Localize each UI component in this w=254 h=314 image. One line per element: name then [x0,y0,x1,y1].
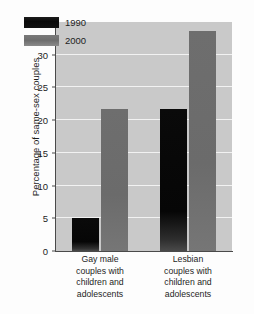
legend-swatch-1990 [24,17,59,28]
y-axis-tick-label: 30 [37,49,48,60]
x-axis-category-line: Lesbian [144,254,232,266]
x-axis-line [55,251,233,252]
legend-swatch-2000 [24,35,59,46]
x-axis-category-line: Gay male [56,254,144,266]
bar-1990-group-1 [72,218,99,251]
bar-1990-group-2 [160,109,187,251]
y-axis-tick-label: 15 [37,147,48,158]
legend-item: 2000 [24,32,144,48]
bar-2000-group-1 [101,109,128,251]
x-axis-category-line: couples with [56,266,144,278]
x-axis-category-label: Gay malecouples withchildren andadolesce… [56,254,144,312]
x-axis-category-line: adolescents [56,289,144,301]
y-axis-tick-labels: 05101520253035 [28,22,52,251]
plot-area [56,22,232,251]
x-axis-category-labels: Gay malecouples withchildren andadolesce… [56,254,232,312]
x-axis-category-label: Lesbiancouples withchildren andadolescen… [144,254,232,312]
y-axis-tick-label: 10 [37,180,48,191]
legend-label-2000: 2000 [65,35,86,46]
y-axis-tick-label: 20 [37,115,48,126]
x-axis-category-line: couples with [144,266,232,278]
x-axis-category-line: children and [144,277,232,289]
x-axis-category-line: children and [56,277,144,289]
y-axis-tick-label: 0 [43,246,48,257]
y-axis-tick-label: 25 [37,82,48,93]
legend-label-1990: 1990 [65,17,86,28]
bar-chart: Percentage of same-sex couples 051015202… [0,0,254,314]
y-axis-tick-label: 5 [43,213,48,224]
chart-legend: 1990 2000 [24,14,144,50]
x-axis-category-line: adolescents [144,289,232,301]
bar-2000-group-2 [189,31,216,251]
legend-item: 1990 [24,14,144,30]
